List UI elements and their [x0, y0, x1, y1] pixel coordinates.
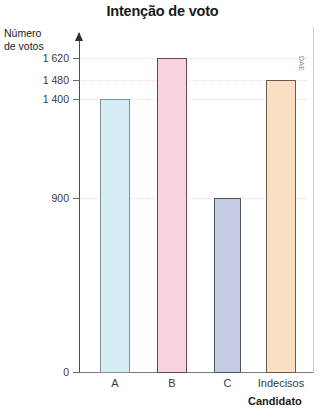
bar-Indecisos[interactable] — [266, 80, 296, 373]
x-tick-label-Indecisos: Indecisos — [255, 377, 307, 389]
y-tick-1400 — [73, 99, 80, 100]
y-axis-arrow-icon — [75, 32, 83, 41]
y-tick-1620 — [73, 58, 80, 59]
plot-right-rule — [313, 27, 314, 373]
bar-B[interactable] — [157, 58, 187, 373]
x-axis-title: Candidato — [248, 395, 302, 407]
y-tick-label-1620: 1 620 — [23, 52, 69, 64]
x-tick-label-B: B — [157, 377, 187, 389]
y-tick-1480 — [73, 80, 80, 81]
y-axis-title-line-1: Número — [4, 27, 66, 40]
x-tick-label-C: C — [214, 377, 241, 389]
y-tick-label-1480: 1 480 — [23, 74, 69, 86]
x-tick-label-A: A — [100, 377, 130, 389]
gridline-1620 — [79, 58, 307, 60]
bar-A[interactable] — [100, 99, 130, 373]
y-axis-title: Número de votos — [4, 27, 66, 53]
y-tick-label-0: 0 — [23, 366, 69, 378]
chart-title: Intenção de voto — [0, 3, 325, 19]
credit-text: DAE — [298, 56, 305, 71]
y-tick-label-900: 900 — [23, 192, 69, 204]
chart-container: Intenção de voto Número de votos 1 620 1… — [0, 0, 325, 420]
y-tick-label-1400: 1 400 — [23, 93, 69, 105]
y-axis-line — [79, 33, 80, 373]
bar-C[interactable] — [214, 198, 241, 373]
y-tick-900 — [73, 198, 80, 199]
plot-area: 1 620 1 480 1 400 900 0 A B C Indecisos — [79, 27, 313, 373]
y-tick-0 — [73, 372, 80, 373]
